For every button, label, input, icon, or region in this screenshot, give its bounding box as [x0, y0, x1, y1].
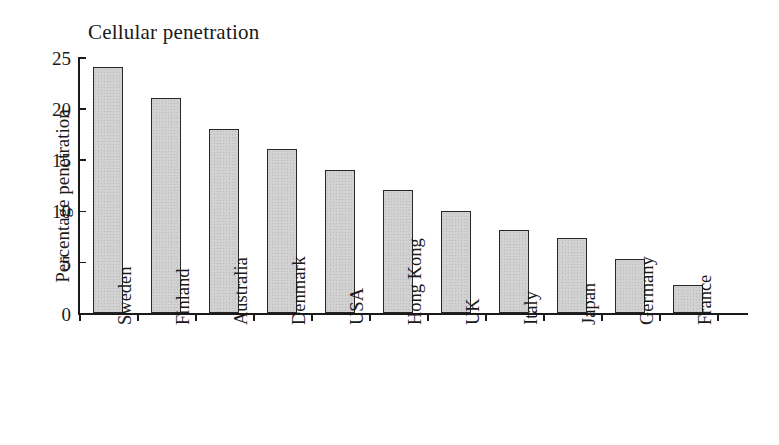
x-axis-label: France [695, 275, 715, 325]
x-axis-label: USA [347, 288, 367, 325]
x-tick-mark [253, 313, 255, 321]
y-tick-label: 10 [52, 202, 71, 221]
x-tick-mark [485, 313, 487, 321]
y-tick-mark [79, 211, 86, 213]
x-axis-labels: SwedenFinlandAustraliaDenmarkUSAHong Kon… [78, 325, 748, 445]
y-tick-label: 15 [52, 151, 71, 170]
x-tick-mark [195, 313, 197, 321]
y-tick-mark [79, 108, 86, 110]
y-tick: 25 [78, 57, 86, 59]
y-tick: 5 [78, 262, 86, 264]
x-tick-mark [717, 313, 719, 321]
x-tick-mark [427, 313, 429, 321]
y-tick: 10 [78, 211, 86, 213]
x-axis-label: Italy [521, 291, 541, 325]
y-tick-label: 25 [52, 48, 71, 67]
chart-figure: Cellular penetration Percentage penetrat… [0, 0, 779, 445]
x-tick-mark [79, 313, 81, 321]
x-axis-label: Japan [579, 283, 599, 325]
y-axis-line [78, 57, 80, 313]
x-axis-label: Hong Kong [405, 238, 425, 325]
y-tick-label: 5 [62, 253, 72, 272]
y-tick-label: 0 [62, 304, 72, 323]
x-tick-mark [543, 313, 545, 321]
x-axis-label: Australia [231, 257, 251, 325]
x-tick-mark [369, 313, 371, 321]
x-tick-mark [137, 313, 139, 321]
x-axis-label: UK [463, 298, 483, 325]
y-tick-mark [79, 57, 86, 59]
chart-title: Cellular penetration [88, 20, 259, 44]
y-tick-mark [79, 159, 86, 161]
y-tick: 20 [78, 108, 86, 110]
x-tick-mark [311, 313, 313, 321]
x-tick-mark [659, 313, 661, 321]
x-tick-mark [601, 313, 603, 321]
x-axis-label: Denmark [289, 256, 309, 325]
x-axis-label: Sweden [115, 266, 135, 325]
x-axis-label: Germany [637, 256, 657, 325]
x-axis-label: Finland [173, 268, 193, 325]
y-tick: 15 [78, 159, 86, 161]
y-tick-mark [79, 262, 86, 264]
y-tick-label: 20 [52, 99, 71, 118]
